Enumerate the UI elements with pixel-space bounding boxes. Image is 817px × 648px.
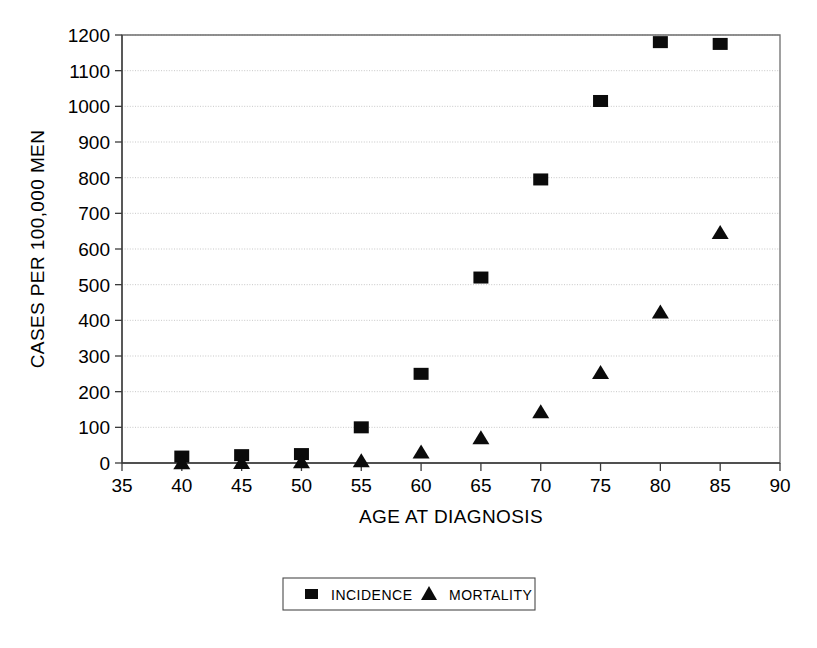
- y-tick-label-800: 800: [78, 168, 110, 189]
- x-tick-label-45: 45: [231, 475, 252, 496]
- y-tick-label-500: 500: [78, 275, 110, 296]
- scatter-plot-svg: 0100200300400500600700800900100011001200…: [0, 0, 817, 648]
- legend-label-incidence: INCIDENCE: [331, 587, 413, 603]
- x-tick-label-50: 50: [291, 475, 312, 496]
- y-axis-ticks: 0100200300400500600700800900100011001200: [68, 25, 122, 474]
- x-tick-label-80: 80: [650, 475, 671, 496]
- datapoint-incidence-age-65: [473, 272, 488, 284]
- y-tick-label-1200: 1200: [68, 25, 110, 46]
- datapoint-mortality-age-80: [652, 304, 669, 318]
- x-tick-label-75: 75: [590, 475, 611, 496]
- datapoint-incidence-age-70: [533, 173, 548, 185]
- datapoint-mortality-age-55: [353, 453, 370, 467]
- x-tick-label-55: 55: [351, 475, 372, 496]
- x-axis-title: AGE AT DIAGNOSIS: [359, 506, 543, 527]
- y-tick-label-100: 100: [78, 417, 110, 438]
- datapoint-incidence-age-75: [593, 95, 608, 107]
- x-tick-label-35: 35: [111, 475, 132, 496]
- legend: INCIDENCE MORTALITY: [283, 578, 535, 610]
- x-tick-label-65: 65: [470, 475, 491, 496]
- datapoint-incidence-age-55: [354, 421, 369, 433]
- datapoint-incidence-age-80: [653, 36, 668, 48]
- y-tick-label-900: 900: [78, 132, 110, 153]
- datapoint-mortality-age-85: [712, 225, 729, 239]
- y-tick-label-0: 0: [99, 453, 110, 474]
- x-tick-label-70: 70: [530, 475, 551, 496]
- x-tick-label-90: 90: [769, 475, 790, 496]
- legend-label-mortality: MORTALITY: [449, 587, 532, 603]
- datapoint-mortality-age-70: [532, 404, 549, 418]
- series-mortality-markers: [173, 225, 728, 469]
- y-axis-title: CASES PER 100,000 MEN: [27, 130, 48, 369]
- datapoint-mortality-age-75: [592, 365, 609, 379]
- y-tick-label-1000: 1000: [68, 96, 110, 117]
- y-tick-label-400: 400: [78, 310, 110, 331]
- datapoint-mortality-age-65: [472, 430, 489, 444]
- x-tick-label-85: 85: [710, 475, 731, 496]
- legend-marker-incidence: [305, 589, 318, 599]
- y-tick-label-600: 600: [78, 239, 110, 260]
- datapoint-incidence-age-60: [414, 368, 429, 380]
- chart-figure: 0100200300400500600700800900100011001200…: [0, 0, 817, 648]
- y-tick-label-1100: 1100: [69, 61, 110, 82]
- x-tick-label-60: 60: [411, 475, 432, 496]
- datapoint-mortality-age-60: [413, 445, 430, 459]
- datapoint-incidence-age-85: [713, 38, 728, 50]
- y-tick-label-700: 700: [78, 203, 110, 224]
- gridlines-group: [122, 35, 780, 427]
- y-tick-label-200: 200: [78, 382, 110, 403]
- x-axis-ticks: 354045505560657075808590: [111, 463, 790, 496]
- x-tick-label-40: 40: [171, 475, 192, 496]
- y-tick-label-300: 300: [78, 346, 110, 367]
